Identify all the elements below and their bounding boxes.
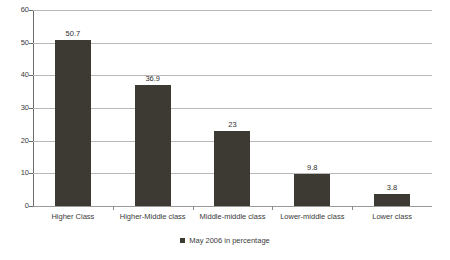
bar-group: 3.8 xyxy=(352,10,432,206)
x-axis-category-label: Lower-middle class xyxy=(272,212,352,222)
y-axis-tick-label: 40 xyxy=(7,71,29,79)
x-axis-category-label: Lower class xyxy=(352,212,432,222)
y-axis-tick-label: 30 xyxy=(7,104,29,112)
bar[interactable] xyxy=(294,174,330,206)
x-axis-category-label: Higher-Middle class xyxy=(113,212,193,222)
y-axis-tick-label: 60 xyxy=(7,6,29,14)
bar-value-label: 9.8 xyxy=(307,163,317,172)
y-axis-tick-mark xyxy=(29,75,33,76)
bar-group: 23 xyxy=(193,10,273,206)
y-axis-tick-label: 10 xyxy=(7,169,29,177)
bar[interactable] xyxy=(55,40,91,206)
legend-swatch-icon xyxy=(180,238,185,243)
y-axis-tick-mark xyxy=(29,173,33,174)
x-axis-tick-mark xyxy=(113,206,114,210)
y-axis-tick-mark xyxy=(29,141,33,142)
bar-value-label: 3.8 xyxy=(387,183,397,192)
legend-label: May 2006 in percentage xyxy=(189,236,269,245)
bar-group: 36.9 xyxy=(113,10,193,206)
x-axis-baseline xyxy=(33,206,432,207)
x-axis-tick-mark xyxy=(272,206,273,210)
bar-value-label: 23 xyxy=(228,120,236,129)
bar[interactable] xyxy=(135,85,171,206)
x-axis-tick-mark xyxy=(193,206,194,210)
x-axis-tick-mark xyxy=(352,206,353,210)
y-axis-tick-mark xyxy=(29,10,33,11)
bar[interactable] xyxy=(374,194,410,206)
plot-area: 50.736.9239.83.8 xyxy=(33,10,432,206)
x-axis-category-label: Middle-middle class xyxy=(193,212,273,222)
y-axis-tick-label: 50 xyxy=(7,39,29,47)
bar-group: 9.8 xyxy=(272,10,352,206)
y-axis-tick-mark xyxy=(29,108,33,109)
y-axis-tick-label: 0 xyxy=(7,202,29,210)
bar-value-label: 50.7 xyxy=(66,29,81,38)
x-axis-category-label: Higher Class xyxy=(33,212,113,222)
y-axis-tick-mark xyxy=(29,43,33,44)
chart-legend: May 2006 in percentage xyxy=(0,236,450,245)
y-axis-tick-label: 20 xyxy=(7,137,29,145)
bar-value-label: 36.9 xyxy=(145,74,160,83)
bar-group: 50.7 xyxy=(33,10,113,206)
chart-figure: 50.736.9239.83.8 6050403020100 Higher Cl… xyxy=(0,0,450,260)
bar[interactable] xyxy=(214,131,250,206)
y-axis-tick-mark xyxy=(29,206,33,207)
